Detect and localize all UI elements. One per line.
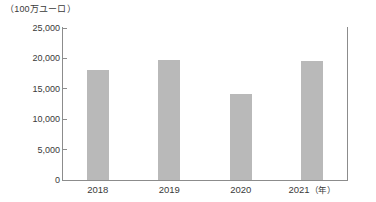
x-axis-line <box>62 180 348 181</box>
y-axis-unit-caption: （100万ユーロ） <box>5 3 76 15</box>
x-axis-label-2018: 2018 <box>62 184 134 196</box>
y-axis-tick-label: 5,000 <box>8 145 60 155</box>
bar-series <box>62 28 348 180</box>
y-axis-tick-label: 15,000 <box>8 84 60 94</box>
y-axis-tick-label: 0 <box>8 175 60 185</box>
y-axis-tick-label: 25,000 <box>8 23 60 33</box>
y-axis-tick-label: 20,000 <box>8 53 60 63</box>
bar-2019 <box>158 60 180 180</box>
bar-2018 <box>87 70 109 180</box>
x-axis-unit-suffix: （年） <box>310 185 336 195</box>
x-axis-label-2020: 2020 <box>205 184 277 196</box>
y-axis-tick-label: 10,000 <box>8 114 60 124</box>
bar-chart-figure: （100万ユーロ） 05,00010,00015,00020,00025,000… <box>0 0 376 202</box>
bar-2021 <box>301 61 323 180</box>
x-axis-label-2019: 2019 <box>134 184 206 196</box>
x-axis-label-2021: 2021（年） <box>277 184 349 196</box>
bar-2020 <box>230 94 252 180</box>
